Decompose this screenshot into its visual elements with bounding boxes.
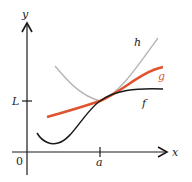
x-axis: [12, 147, 167, 157]
curve-label-h: h: [134, 36, 141, 49]
origin-label: 0: [16, 155, 23, 168]
curve-label-f: f: [141, 97, 148, 110]
curve-h: [55, 38, 158, 101]
x-tick-label-a: a: [96, 156, 103, 169]
curve-label-g: g: [158, 70, 165, 83]
x-axis-label: x: [172, 146, 179, 159]
squeeze-theorem-diagram: y x 0 a L h g f: [0, 0, 192, 182]
y-axis-label: y: [21, 8, 29, 21]
y-tick-label-L: L: [11, 95, 19, 108]
